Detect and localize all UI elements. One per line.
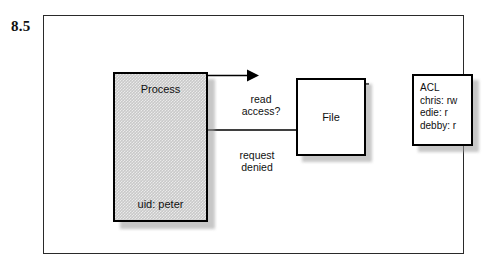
edge-request-label-line2: access? bbox=[226, 105, 296, 117]
figure-canvas: 8.5 read access? request bbox=[0, 0, 489, 271]
file-node: File bbox=[296, 78, 366, 156]
connector-layer bbox=[44, 16, 465, 255]
diagram-frame: read access? request denied Process uid:… bbox=[43, 15, 464, 254]
acl-node: ACL chris: rw edie: r debby: r bbox=[412, 74, 473, 146]
edge-request-arrowhead bbox=[247, 70, 259, 82]
process-node-uid: uid: peter bbox=[115, 198, 206, 210]
acl-entry-debby: debby: r bbox=[420, 120, 471, 133]
figure-number-label: 8.5 bbox=[11, 18, 30, 35]
edge-request-label: read access? bbox=[226, 93, 296, 117]
acl-entry-edie: edie: r bbox=[420, 107, 471, 120]
process-node-title: Process bbox=[115, 83, 206, 95]
file-node-title: File bbox=[298, 111, 364, 123]
process-node: Process uid: peter bbox=[113, 72, 208, 222]
acl-entry-chris: chris: rw bbox=[420, 95, 471, 108]
edge-response-label-line2: denied bbox=[220, 161, 294, 173]
edge-response-label-line1: request bbox=[220, 149, 294, 161]
edge-request-label-line1: read bbox=[226, 93, 296, 105]
acl-node-title: ACL bbox=[420, 82, 471, 95]
edge-response-label: request denied bbox=[220, 149, 294, 173]
